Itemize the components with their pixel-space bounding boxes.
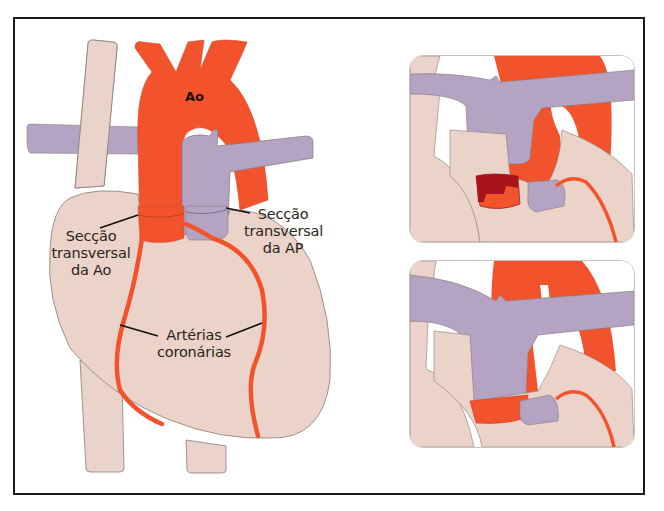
label-coronary-arteries: Artérias coronárias xyxy=(154,327,234,361)
label-aorta: Ao xyxy=(185,89,204,104)
detail-top-illustration xyxy=(410,56,634,242)
aortic-root xyxy=(138,206,184,243)
detail-panel-top xyxy=(409,55,635,243)
label-pa-section: Secção transversal da AP xyxy=(244,206,322,257)
detail-panel-bottom xyxy=(409,260,635,448)
descending-vessel xyxy=(186,440,226,473)
detail-bottom-illustration xyxy=(410,261,634,447)
label-aorta-section: Secção transversal da Ao xyxy=(46,228,136,279)
